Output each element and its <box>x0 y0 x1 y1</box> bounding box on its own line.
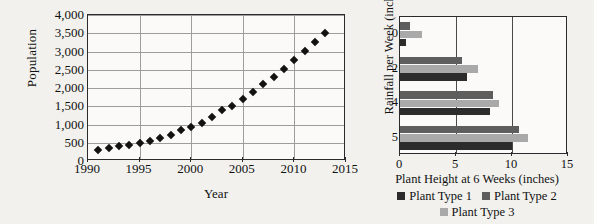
bar-y-tick: 2 <box>392 62 398 75</box>
scatter-gridline-vertical <box>191 15 192 159</box>
bar-segment <box>400 57 462 65</box>
bar-segment <box>400 142 512 150</box>
bar-x-tickmark <box>567 152 568 156</box>
bar-segment <box>400 31 422 39</box>
bar-segment <box>400 22 410 30</box>
legend-swatch-icon <box>397 192 405 200</box>
bar-segment <box>400 100 499 108</box>
bar-x-axis-label: Plant Height at 6 Weeks (inches) <box>360 172 594 187</box>
bar-segment <box>400 108 490 116</box>
scatter-gridline-vertical <box>294 15 295 159</box>
scatter-gridline-horizontal <box>88 125 344 126</box>
bar-legend: Plant Type 1Plant Type 2 Plant Type 3 <box>360 190 594 221</box>
scatter-data-point <box>94 145 102 153</box>
scatter-x-tickmark <box>242 157 243 162</box>
scatter-data-point <box>321 29 329 37</box>
bar-y-tick: 0 <box>392 27 398 40</box>
scatter-x-tick: 1995 <box>126 162 152 175</box>
scatter-x-tickmark <box>139 157 140 162</box>
scatter-y-tick: 3,000 <box>55 44 84 57</box>
scatter-y-tick-labels: 05001,0001,5002,0002,5003,0003,5004,000 <box>32 8 84 163</box>
scatter-x-tickmark <box>190 157 191 162</box>
bar-segment <box>400 39 406 47</box>
scatter-x-tick: 2015 <box>332 162 358 175</box>
scatter-gridline-horizontal <box>88 33 344 34</box>
legend-label: Plant Type 3 <box>452 205 515 219</box>
scatter-y-tick: 2,500 <box>55 62 84 75</box>
bar-x-tick: 10 <box>505 158 518 171</box>
legend-label: Plant Type 1 <box>409 189 472 203</box>
scatter-data-point <box>135 139 143 147</box>
scatter-gridline-horizontal <box>88 15 344 16</box>
bar-x-tickmark <box>399 152 400 156</box>
scatter-y-tick: 2,000 <box>55 81 84 94</box>
bar-segment <box>400 126 519 134</box>
bar-segment <box>400 134 528 142</box>
scatter-data-point <box>300 47 308 55</box>
scatter-x-tickmark <box>87 157 88 162</box>
bar-y-tick: 5 <box>392 131 398 144</box>
bar-x-tick: 15 <box>561 158 574 171</box>
bar-x-tickmark <box>455 152 456 156</box>
scatter-y-tick: 1,500 <box>55 99 84 112</box>
scatter-gridline-vertical <box>140 15 141 159</box>
scatter-x-tick: 2005 <box>229 162 255 175</box>
scatter-data-point <box>177 126 185 134</box>
bar-x-tickmark <box>511 152 512 156</box>
scatter-data-point <box>166 131 174 139</box>
legend-row-secondary: Plant Type 3 <box>360 206 594 219</box>
scatter-y-tick: 1,000 <box>55 117 84 130</box>
scatter-data-point <box>156 133 164 141</box>
bar-x-tick: 0 <box>396 158 402 171</box>
scatter-data-point <box>228 101 236 109</box>
scatter-data-point <box>270 72 278 80</box>
legend-item[interactable]: Plant Type 1 <box>397 190 472 203</box>
scatter-data-point <box>218 106 226 114</box>
scatter-y-tick: 4,000 <box>55 8 84 21</box>
bar-x-tick-labels: 051015 <box>399 156 567 172</box>
scatter-x-axis-label: Year <box>87 186 345 202</box>
scatter-data-point <box>197 118 205 126</box>
scatter-gridline-horizontal <box>88 106 344 107</box>
scatter-data-point <box>311 38 319 46</box>
legend-swatch-icon <box>440 208 448 216</box>
scatter-x-tickmark <box>345 157 346 162</box>
plant-height-bar-chart: Rainfall per Week (inches) 0245 051015 P… <box>360 0 594 224</box>
scatter-data-point <box>239 95 247 103</box>
bar-plot-area <box>399 16 567 154</box>
scatter-gridline-vertical <box>243 15 244 159</box>
legend-row-primary: Plant Type 1Plant Type 2 <box>360 190 594 203</box>
legend-label: Plant Type 2 <box>494 189 557 203</box>
scatter-x-tick: 2000 <box>177 162 203 175</box>
scatter-data-point <box>290 56 298 64</box>
legend-item[interactable]: Plant Type 3 <box>440 206 515 219</box>
bar-segment <box>400 65 478 73</box>
legend-swatch-icon <box>482 192 490 200</box>
scatter-data-point <box>208 113 216 121</box>
bar-segment <box>400 91 493 99</box>
scatter-data-point <box>249 88 257 96</box>
bar-y-tick: 4 <box>392 96 398 109</box>
scatter-data-point <box>104 144 112 152</box>
bar-y-tick-labels: 0245 <box>374 16 398 154</box>
scatter-x-tick: 2010 <box>280 162 306 175</box>
scatter-x-tick: 1990 <box>74 162 100 175</box>
population-scatter-chart: Population 05001,0001,5002,0002,5003,000… <box>0 0 360 224</box>
bar-x-tick: 5 <box>452 158 458 171</box>
scatter-y-tick: 500 <box>65 135 85 148</box>
scatter-y-tick: 3,500 <box>55 26 84 39</box>
two-chart-figure: Population 05001,0001,5002,0002,5003,000… <box>0 0 594 224</box>
scatter-gridline-horizontal <box>88 70 344 71</box>
scatter-x-tickmark <box>293 157 294 162</box>
legend-item[interactable]: Plant Type 2 <box>482 190 557 203</box>
scatter-data-point <box>280 64 288 72</box>
scatter-gridline-horizontal <box>88 88 344 89</box>
scatter-x-tick-labels: 199019952000200520102015 <box>87 162 345 178</box>
bar-segment <box>400 73 467 81</box>
scatter-plot-area <box>87 14 345 160</box>
